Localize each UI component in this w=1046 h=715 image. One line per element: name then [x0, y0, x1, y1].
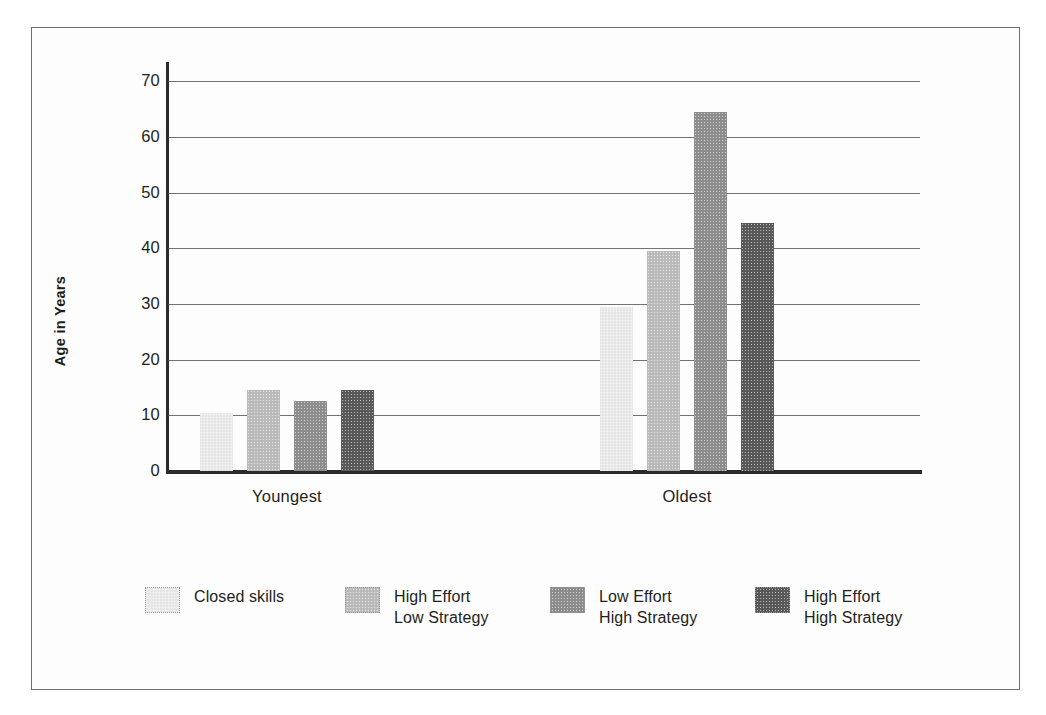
bar-texture [647, 251, 680, 471]
legend-label: High EffortHigh Strategy [804, 586, 902, 628]
bar [694, 112, 727, 471]
legend-swatch-texture [146, 588, 179, 612]
bar [294, 401, 327, 471]
gridline [168, 248, 920, 249]
bar [600, 307, 633, 471]
plot-area [168, 70, 920, 471]
legend-label: High EffortLow Strategy [394, 586, 489, 628]
y-axis-tick-label: 50 [114, 183, 160, 202]
gridline [168, 304, 920, 305]
legend-swatch-texture [756, 588, 789, 612]
bar [200, 413, 233, 471]
gridline [168, 415, 920, 416]
gridline [168, 360, 920, 361]
bar [647, 251, 680, 471]
bar-texture [741, 223, 774, 471]
legend-item[interactable]: Closed skills [145, 586, 284, 613]
bar-texture [247, 390, 280, 471]
legend-item[interactable]: High EffortLow Strategy [345, 586, 489, 628]
y-axis-tick-label: 70 [114, 71, 160, 90]
y-axis-title: Age in Years [52, 246, 68, 396]
legend-swatch [550, 587, 585, 613]
bar-texture [694, 112, 727, 471]
bar [341, 390, 374, 471]
gridline [168, 81, 920, 82]
legend-item[interactable]: High EffortHigh Strategy [755, 586, 902, 628]
legend-label-line2: High Strategy [599, 607, 697, 628]
legend-label: Low EffortHigh Strategy [599, 586, 697, 628]
y-axis-tick-label: 30 [114, 294, 160, 313]
legend-label-line1: Low Effort [599, 586, 697, 607]
legend-swatch [145, 587, 180, 613]
legend-label: Closed skills [194, 586, 284, 607]
legend-label-line1: Closed skills [194, 586, 284, 607]
legend-label-line2: High Strategy [804, 607, 902, 628]
gridline [168, 137, 920, 138]
legend-label-line1: High Effort [804, 586, 902, 607]
x-axis-category-label: Oldest [540, 487, 834, 506]
legend-label-line2: Low Strategy [394, 607, 489, 628]
bar-texture [341, 390, 374, 471]
y-axis-tick-label: 60 [114, 127, 160, 146]
y-axis-tick-label: 20 [114, 350, 160, 369]
chart-legend: Closed skillsHigh EffortLow StrategyLow … [145, 586, 905, 656]
legend-label-line1: High Effort [394, 586, 489, 607]
bar [247, 390, 280, 471]
y-axis-tick-label: 10 [114, 405, 160, 424]
legend-swatch [345, 587, 380, 613]
bar-texture [600, 307, 633, 471]
bar-texture [200, 413, 233, 471]
y-axis-tick-label: 40 [114, 238, 160, 257]
bar [741, 223, 774, 471]
legend-swatch-texture [346, 588, 379, 612]
x-axis-category-label: Youngest [140, 487, 434, 506]
legend-item[interactable]: Low EffortHigh Strategy [550, 586, 697, 628]
y-axis-tick-label: 0 [114, 461, 160, 480]
figure-container: Age in Years 010203040506070 Closed skil… [0, 0, 1046, 715]
bar-texture [294, 401, 327, 471]
legend-swatch [755, 587, 790, 613]
legend-swatch-texture [551, 588, 584, 612]
gridline [168, 193, 920, 194]
